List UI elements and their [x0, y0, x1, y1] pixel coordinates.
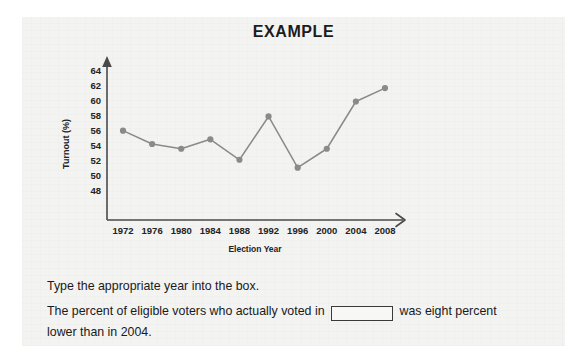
page-title: EXAMPLE [0, 23, 587, 41]
x-tick-label: 1972 [112, 225, 133, 236]
y-tick-label: 64 [90, 65, 101, 76]
x-tick-labels: 1972197619801984198819921996200020042008 [112, 225, 395, 236]
data-point [295, 165, 301, 171]
x-tick-label: 1980 [171, 225, 192, 236]
y-tick-labels: 64 62 60 58 56 54 52 50 48 [90, 65, 101, 196]
question-text-before: The percent of eligible voters who actua… [47, 304, 325, 318]
y-tick-label: 60 [90, 95, 101, 106]
x-tick-label: 2008 [374, 225, 395, 236]
question-instruction: Type the appropriate year into the box. [47, 276, 547, 297]
turnout-series-line [123, 88, 385, 168]
y-tick-label: 62 [90, 80, 101, 91]
y-axis [102, 56, 112, 220]
data-point [120, 128, 126, 134]
x-tick-label: 1988 [229, 225, 250, 236]
x-tick-label: 2004 [345, 225, 367, 236]
data-point [207, 136, 213, 142]
x-tick-label: 2000 [316, 225, 337, 236]
x-axis-title: Election Year [228, 244, 282, 254]
year-answer-input[interactable] [331, 306, 393, 321]
x-tick-label: 1992 [258, 225, 279, 236]
y-tick-label: 48 [90, 185, 101, 196]
worksheet-page: EXAMPLE 64 62 60 58 56 54 52 50 [0, 0, 587, 364]
data-point [353, 98, 359, 104]
y-axis-title: Turnout (%) [61, 119, 71, 169]
y-tick-label: 50 [90, 170, 101, 181]
x-tick-label: 1996 [287, 225, 308, 236]
data-point [236, 157, 242, 163]
turnout-series-markers [120, 85, 388, 171]
x-tick-label: 1976 [142, 225, 163, 236]
data-point [149, 141, 155, 147]
data-point [324, 146, 330, 152]
y-tick-label: 52 [90, 155, 101, 166]
data-point [265, 113, 271, 119]
data-point [178, 146, 184, 152]
x-tick-label: 1984 [200, 225, 222, 236]
data-point [382, 85, 388, 91]
turnout-line-chart: 64 62 60 58 56 54 52 50 48 Turnout (%) 1… [55, 52, 455, 262]
y-tick-label: 58 [90, 110, 101, 121]
y-tick-label: 56 [90, 125, 101, 136]
question-body: The percent of eligible voters who actua… [47, 301, 517, 343]
y-tick-label: 54 [90, 140, 101, 151]
question-block: Type the appropriate year into the box. … [47, 276, 547, 343]
